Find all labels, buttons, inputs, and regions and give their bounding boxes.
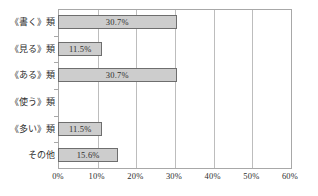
- x-tick-label: 60%: [282, 171, 298, 181]
- category-label: 《書く》類: [10, 9, 55, 36]
- bar-value-label: 30.7%: [58, 68, 177, 82]
- bars-layer: 30.7%11.5%30.7%11.5%15.6%: [58, 9, 292, 169]
- bar-row: 15.6%: [58, 142, 292, 169]
- category-axis: 《書く》類《見る》類《ある》類《使う》類《多い》類その他: [0, 9, 58, 169]
- x-tick-label: 50%: [243, 171, 259, 181]
- value-axis: 0%10%20%30%40%50%60%: [58, 171, 292, 185]
- bar-row: 11.5%: [58, 116, 292, 143]
- bar-value-label: 11.5%: [58, 42, 102, 56]
- bar-value-label: 30.7%: [58, 15, 177, 29]
- x-tick-label: 10%: [89, 171, 105, 181]
- bar-row: [58, 89, 292, 116]
- bar-row: 30.7%: [58, 62, 292, 89]
- bar-row: 11.5%: [58, 36, 292, 63]
- category-label: 《見る》類: [10, 36, 55, 63]
- x-tick-label: 0%: [52, 171, 64, 181]
- x-tick-label: 20%: [127, 171, 143, 181]
- bar-row: 30.7%: [58, 9, 292, 36]
- x-tick-label: 30%: [166, 171, 182, 181]
- category-label: 《使う》類: [10, 89, 55, 116]
- bar-value-label: 15.6%: [58, 148, 118, 162]
- category-label: 《多い》類: [10, 116, 55, 143]
- x-tick-label: 40%: [205, 171, 221, 181]
- bar-value-label: 11.5%: [58, 122, 102, 136]
- category-label: 《ある》類: [10, 62, 55, 89]
- horizontal-bar-chart: 《書く》類《見る》類《ある》類《使う》類《多い》類その他 30.7%11.5%3…: [0, 0, 318, 196]
- category-label: その他: [28, 142, 55, 169]
